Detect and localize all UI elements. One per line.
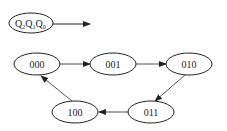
state-label: 011 — [144, 107, 159, 118]
state-label: 010 — [182, 59, 197, 70]
arrow-010-011 — [155, 75, 185, 101]
legend: Q2Q1Q0 — [9, 13, 90, 33]
state-100: 100 — [52, 101, 98, 123]
state-label: 000 — [30, 59, 45, 70]
state-000: 000 — [14, 53, 60, 75]
state-010: 010 — [166, 53, 212, 75]
state-011: 011 — [128, 101, 174, 123]
legend-label: Q2Q1Q0 — [15, 18, 46, 30]
state-001: 001 — [90, 53, 136, 75]
arrow-100-000 — [41, 76, 72, 101]
state-label: 001 — [106, 59, 121, 70]
state-label: 100 — [68, 107, 83, 118]
state-diagram: Q2Q1Q0 000 001 010 011 100 — [0, 0, 227, 131]
